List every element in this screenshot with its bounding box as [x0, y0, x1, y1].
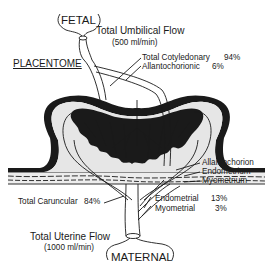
- fetal-label: FETAL: [61, 14, 97, 26]
- myometrial-value: 3%: [215, 204, 227, 213]
- cotyledonary-value: 94%: [224, 53, 240, 62]
- placentome-title: PLACENTOME: [13, 58, 82, 69]
- endometrium-layer-label: Endometrium: [202, 167, 251, 176]
- caruncular-value: 84%: [84, 197, 100, 206]
- uterine-flow-value: (1000 ml/min): [44, 243, 94, 252]
- allantochorion-layer-label: Allantochorion: [202, 158, 254, 167]
- endometrial-value: 13%: [211, 194, 227, 203]
- myometrial-label: Myometrial: [155, 204, 195, 213]
- myometrium-layer-label: Myometrium: [202, 176, 247, 185]
- placentome-blood-flow-diagram: FETAL Total Umbilical Flow (500 ml/min) …: [0, 0, 273, 274]
- umbilical-flow-title: Total Umbilical Flow: [96, 25, 185, 36]
- umbilical-flow-value: (500 ml/min): [112, 38, 158, 47]
- cotyledonary-label: Total Cotyledonary: [142, 53, 211, 62]
- uterine-flow-title: Total Uterine Flow: [30, 231, 111, 242]
- maternal-label: MATERNAL: [111, 251, 173, 263]
- caruncular-label: Total Caruncular: [18, 197, 78, 206]
- allantochorionic-label: Allantochorionic: [142, 62, 200, 71]
- allantochorionic-value: 6%: [212, 62, 224, 71]
- endometrial-label: Endometrial: [155, 194, 199, 203]
